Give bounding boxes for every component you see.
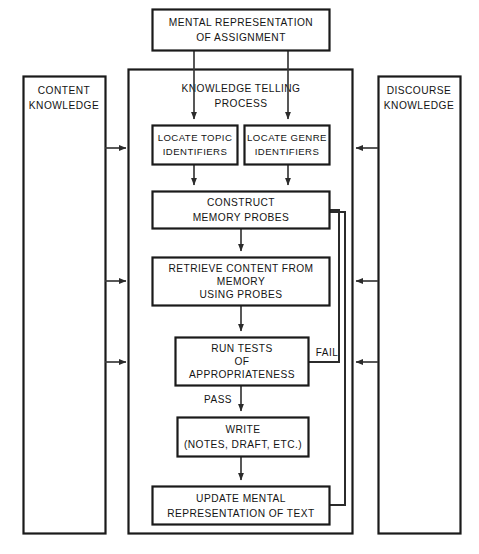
container-content-knowledge: CONTENT KNOWLEDGE bbox=[24, 77, 106, 534]
locate-topic-line-2: IDENTIFIERS bbox=[163, 146, 228, 157]
node-construct-memory-probes: CONSTRUCT MEMORY PROBES bbox=[153, 192, 330, 229]
update-mental-representation-line-1: UPDATE MENTAL bbox=[196, 493, 286, 504]
node-update-mental-representation: UPDATE MENTAL REPRESENTATION OF TEXT bbox=[153, 487, 330, 525]
retrieve-content-line-3: USING PROBES bbox=[200, 289, 283, 300]
locate-genre-line-2: IDENTIFIERS bbox=[255, 146, 320, 157]
node-locate-topic: LOCATE TOPIC IDENTIFIERS bbox=[153, 126, 238, 165]
node-write: WRITE (NOTES, DRAFT, ETC.) bbox=[178, 418, 309, 457]
update-mental-representation-line-2: REPRESENTATION OF TEXT bbox=[167, 508, 314, 519]
edge-run-tests-to-write: PASS bbox=[204, 385, 241, 411]
discourse-knowledge-label-line-2: KNOWLEDGE bbox=[384, 100, 454, 111]
knowledge-telling-process-label-line-1: KNOWLEDGE TELLING bbox=[182, 83, 301, 94]
retrieve-content-line-2: MEMORY bbox=[217, 276, 265, 287]
construct-memory-probes-line-1: CONSTRUCT bbox=[207, 197, 275, 208]
edge-label-pass: PASS bbox=[204, 394, 232, 405]
write-line-1: WRITE bbox=[225, 424, 260, 435]
discourse-knowledge-label-line-1: DISCOURSE bbox=[387, 85, 452, 96]
construct-memory-probes-line-2: MEMORY PROBES bbox=[193, 212, 290, 223]
container-discourse-knowledge: DISCOURSE KNOWLEDGE bbox=[379, 77, 461, 534]
node-locate-genre: LOCATE GENRE IDENTIFIERS bbox=[245, 126, 330, 165]
edge-update-to-construct-feedback bbox=[314, 212, 345, 505]
retrieve-content-line-1: RETRIEVE CONTENT FROM bbox=[168, 263, 313, 274]
run-tests-line-3: APPROPRIATENESS bbox=[189, 369, 295, 380]
knowledge-telling-diagram: CONTENT KNOWLEDGE DISCOURSE KNOWLEDGE KN… bbox=[0, 0, 479, 554]
locate-genre-line-1: LOCATE GENRE bbox=[247, 132, 327, 143]
node-run-tests: RUN TESTS OF APPROPRIATENESS bbox=[176, 338, 309, 386]
mental-representation-line-1: MENTAL REPRESENTATION bbox=[169, 17, 313, 28]
content-knowledge-label-line-2: KNOWLEDGE bbox=[29, 100, 99, 111]
write-line-2: (NOTES, DRAFT, ETC.) bbox=[184, 439, 302, 450]
edge-label-fail: FAIL bbox=[316, 347, 339, 358]
run-tests-line-2: OF bbox=[234, 356, 249, 367]
knowledge-telling-process-label-line-2: PROCESS bbox=[215, 98, 268, 109]
locate-topic-line-1: LOCATE TOPIC bbox=[158, 132, 233, 143]
node-mental-representation: MENTAL REPRESENTATION OF ASSIGNMENT bbox=[153, 10, 330, 51]
content-knowledge-label-line-1: CONTENT bbox=[38, 85, 90, 96]
mental-representation-line-2: OF ASSIGNMENT bbox=[196, 32, 286, 43]
node-retrieve-content: RETRIEVE CONTENT FROM MEMORY USING PROBE… bbox=[153, 258, 330, 306]
run-tests-line-1: RUN TESTS bbox=[211, 343, 273, 354]
